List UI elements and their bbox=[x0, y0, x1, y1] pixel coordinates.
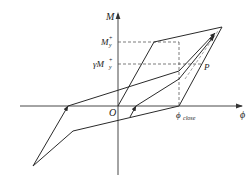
reload-arrow-branch bbox=[33, 106, 68, 166]
y-axis bbox=[116, 12, 121, 175]
svg-text:y: y bbox=[108, 42, 112, 48]
y-axis-label: M bbox=[105, 11, 115, 22]
svg-text:M: M bbox=[100, 37, 109, 47]
p-to-peak-guide bbox=[185, 31, 218, 79]
upper-reload-branch bbox=[68, 33, 215, 106]
svg-text:close: close bbox=[183, 115, 196, 121]
hysteresis-diagram: M ϕ O M + y γM + y P ϕ close bbox=[0, 0, 252, 186]
origin-label: O bbox=[109, 107, 116, 118]
svg-text:ϕ: ϕ bbox=[176, 110, 181, 120]
inner-reload-arrow bbox=[130, 106, 136, 117]
x-axis bbox=[20, 104, 243, 109]
unloading-branch bbox=[179, 27, 222, 106]
negative-loading-branch bbox=[33, 106, 179, 166]
y-axis-arrow-icon bbox=[116, 12, 121, 19]
reduced-moment-label: γM + y bbox=[93, 57, 113, 70]
yield-moment-label: M + y bbox=[100, 35, 113, 48]
x-axis-label: ϕ bbox=[240, 109, 245, 120]
svg-text:+: + bbox=[109, 57, 113, 63]
svg-text:+: + bbox=[109, 35, 113, 41]
phi-close-label: ϕ close bbox=[176, 110, 196, 121]
x-axis-arrow-icon bbox=[236, 104, 243, 109]
dashed-guides bbox=[118, 31, 218, 106]
point-p-label: P bbox=[203, 62, 210, 72]
svg-text:y: y bbox=[108, 64, 112, 70]
svg-text:γM: γM bbox=[93, 59, 105, 69]
hysteresis-curves bbox=[33, 27, 222, 166]
